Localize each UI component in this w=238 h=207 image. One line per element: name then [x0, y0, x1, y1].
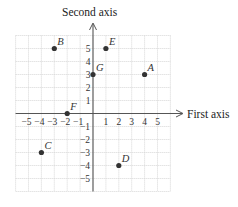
- point-f-marker: [65, 111, 70, 116]
- point-f-label: F: [70, 101, 76, 112]
- x-tick-label: 3: [129, 117, 134, 127]
- x-tick-label: −2: [60, 117, 70, 127]
- y-tick-label: 1: [86, 96, 91, 106]
- x-tick-label: 1: [104, 117, 109, 127]
- x-tick-label: −5: [21, 117, 31, 127]
- x-tick-label: 5: [155, 117, 160, 127]
- point-c-marker: [39, 150, 44, 155]
- y-tick-label: 5: [86, 44, 91, 54]
- x-tick-label: −3: [47, 117, 57, 127]
- point-g-label: G: [96, 62, 104, 73]
- y-tick-label: −5: [80, 174, 90, 184]
- x-tick-label: −4: [34, 117, 44, 127]
- point-a-label: A: [148, 62, 154, 73]
- x-axis-title: First axis: [187, 108, 230, 120]
- point-b-marker: [52, 46, 57, 51]
- y-tick-label: −2: [80, 135, 90, 145]
- point-c-label: C: [44, 140, 51, 151]
- y-tick-label: 3: [86, 70, 91, 80]
- point-g-marker: [90, 72, 95, 77]
- coordinate-plane: Second axis First axis −5−4−3−2−11234554…: [0, 0, 238, 207]
- y-axis-title: Second axis: [62, 6, 117, 18]
- coordinate-plane-graphic: [0, 0, 238, 207]
- point-d-label: D: [122, 153, 130, 164]
- point-e-label: E: [109, 36, 115, 47]
- x-tick-label: 4: [142, 117, 147, 127]
- point-b-label: B: [57, 36, 63, 47]
- y-tick-label: 4: [86, 57, 91, 67]
- y-tick-label: 2: [86, 83, 91, 93]
- x-tick-label: 2: [116, 117, 121, 127]
- y-tick-label: −1: [80, 122, 90, 132]
- y-tick-label: −3: [80, 148, 90, 158]
- point-d-marker: [116, 163, 121, 168]
- point-a-marker: [142, 72, 147, 77]
- y-tick-label: −4: [80, 161, 90, 171]
- point-e-marker: [103, 46, 108, 51]
